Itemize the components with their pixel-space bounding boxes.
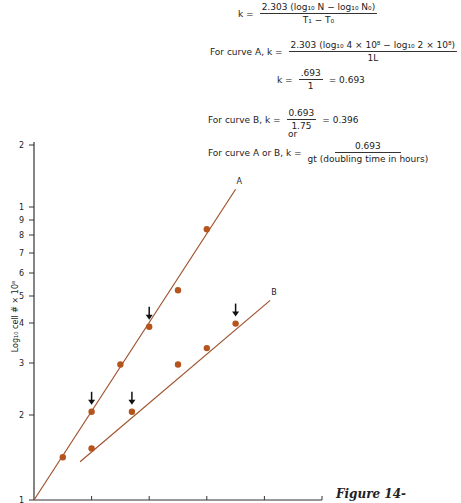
data-point [175,287,181,293]
y-tick-label: 6 [19,269,24,278]
fit-line-a [34,189,236,500]
fit-lines [34,189,270,500]
data-point [175,361,181,367]
curve-label-b: B [271,288,277,297]
y-tick-label: 2 [19,141,24,150]
arrow-head-icon [232,312,239,317]
arrow-markers [88,304,239,405]
data-point [146,324,152,330]
figure-label: Figure 14- [336,487,406,501]
data-points [60,226,239,460]
fit-line-b [80,300,270,461]
data-point [204,226,210,232]
y-tick-label: 8 [19,231,24,240]
curve-label-a: A [237,177,243,186]
arrow-head-icon [128,400,135,405]
curve-labels: AB [237,177,277,297]
y-axis-label: Log₁₀ cell # × 10⁸ [11,281,20,352]
y-tick-label: 9 [19,216,24,225]
axes: 21987654321 [19,141,322,503]
data-point [117,361,123,367]
data-point [232,320,238,326]
data-point [204,345,210,351]
y-tick-label: 1 [19,496,24,503]
y-tick-label: 1 [19,203,24,212]
data-point [129,409,135,415]
y-tick-label: 2 [19,411,24,420]
y-tick-label: 3 [19,359,24,368]
data-point [88,445,94,451]
arrow-head-icon [88,400,95,405]
data-point [88,409,94,415]
y-tick-label: 7 [19,249,24,258]
data-point [60,454,66,460]
